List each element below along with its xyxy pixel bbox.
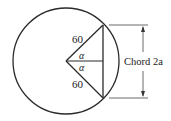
arrow-down-icon — [141, 91, 145, 97]
arrow-up-icon — [141, 26, 145, 32]
chord-label: Chord 2a — [124, 56, 163, 67]
lower-angle-label: α — [79, 62, 85, 73]
upper-angle-label: α — [79, 50, 85, 61]
circle-figure — [13, 8, 119, 114]
chord-diagram: 60 60 α α Chord 2a — [0, 0, 171, 121]
upper-radius-label: 60 — [72, 33, 84, 45]
lower-radius-label: 60 — [72, 78, 84, 90]
